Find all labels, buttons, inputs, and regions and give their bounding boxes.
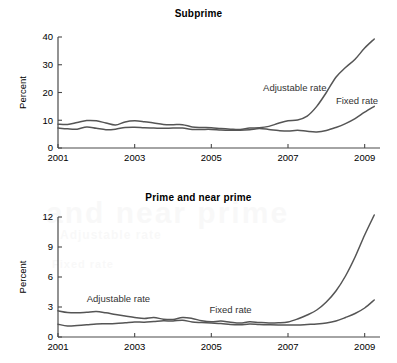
x-tick-label-2007: 2007	[277, 152, 298, 163]
annotation-fixed-rate: Fixed rate	[209, 304, 251, 315]
figure-two-panel-delinquency-chart: and near prime Adjustable rate Fixed rat…	[0, 0, 397, 363]
y-tick-label-40: 40	[42, 31, 53, 42]
y-tick-label-20: 20	[42, 87, 53, 98]
y-axis-title: Percent	[17, 260, 28, 293]
chart-svg-prime: 03691220012003200520072009PercentAdjusta…	[0, 185, 397, 363]
y-tick-label-10: 10	[42, 115, 53, 126]
series-line-adjustable-rate	[58, 39, 374, 130]
y-axis-title: Percent	[17, 76, 28, 109]
x-tick-label-2001: 2001	[47, 152, 68, 163]
x-tick-label-2009: 2009	[354, 152, 375, 163]
x-tick-label-2009: 2009	[354, 341, 375, 352]
y-tick-label-9: 9	[48, 241, 53, 252]
annotation-fixed-rate: Fixed rate	[336, 95, 378, 106]
x-tick-label-2001: 2001	[47, 341, 68, 352]
x-tick-label-2007: 2007	[277, 341, 298, 352]
y-tick-label-12: 12	[42, 211, 53, 222]
chart-title-prime: Prime and near prime	[0, 192, 397, 203]
chart-svg-subprime: 01020304020012003200520072009PercentAdju…	[0, 0, 397, 185]
chart-panel-subprime: Subprime 01020304020012003200520072009Pe…	[0, 0, 397, 185]
x-tick-label-2003: 2003	[124, 341, 145, 352]
chart-panel-prime: Prime and near prime 0369122001200320052…	[0, 185, 397, 363]
x-tick-label-2003: 2003	[124, 152, 145, 163]
y-tick-label-6: 6	[48, 271, 53, 282]
x-tick-label-2005: 2005	[201, 341, 222, 352]
annotation-adjustable-rate: Adjustable rate	[263, 82, 326, 93]
chart-title-subprime: Subprime	[0, 8, 397, 19]
annotation-adjustable-rate: Adjustable rate	[87, 293, 150, 304]
y-tick-label-30: 30	[42, 59, 53, 70]
x-tick-label-2005: 2005	[201, 152, 222, 163]
y-tick-label-3: 3	[48, 301, 53, 312]
